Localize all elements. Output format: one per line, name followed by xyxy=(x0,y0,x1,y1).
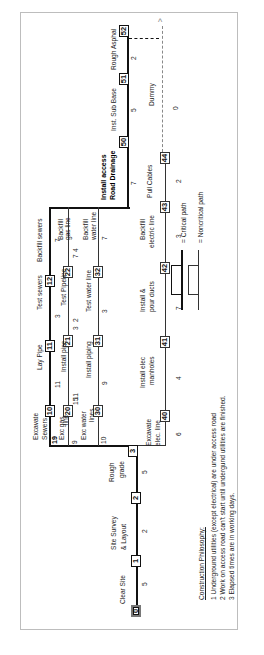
node-52: 52 xyxy=(119,25,129,37)
label-exc-water-1: Exc water xyxy=(80,411,88,440)
label-backfill-sewers: Backfill sewers xyxy=(36,218,44,262)
label-backfill-water-2: water line xyxy=(90,212,98,240)
dashed-link-to-dummy xyxy=(129,38,159,39)
node-51: 51 xyxy=(119,73,129,85)
label-excavate-elec-2: elec. line xyxy=(154,420,162,446)
label-exc-water-2: lines xyxy=(88,408,96,422)
label-site-survey-1: Site Survey xyxy=(110,516,118,550)
dummy-arrow-icon: ^ xyxy=(158,18,162,27)
dur-32-end: 4 xyxy=(72,248,80,252)
node-11: 11 xyxy=(45,340,55,352)
dur-gas-water: 9 xyxy=(71,440,79,444)
node-50: 50 xyxy=(119,136,129,148)
label-rough-grade-1: Rough xyxy=(108,463,116,482)
label-pull-cables: Pull Cables xyxy=(146,165,154,198)
node-42: 42 xyxy=(160,262,170,274)
label-rough-asphalt: Rough Asphal xyxy=(110,29,118,70)
label-test-sewers: Test sewers xyxy=(36,275,44,310)
dur-2-3: 5 xyxy=(141,470,149,474)
label-install-manholes-2: manholes xyxy=(148,356,156,385)
dur-dummy: 0 xyxy=(172,106,180,110)
label-backfill-gas-2: gas line xyxy=(64,217,72,240)
label-test-water: Test water line xyxy=(85,270,93,312)
notes-title: Construction Philosophy: xyxy=(198,527,206,600)
dur-water-row: 10 xyxy=(100,437,108,444)
dur-1-2: 2 xyxy=(141,529,149,533)
node-0: 0 xyxy=(131,605,141,617)
label-exc-gas-2: line xyxy=(62,415,70,425)
label-install-pipe: Install pipe xyxy=(60,340,68,372)
node-3: 3 xyxy=(128,445,138,457)
critical-line-start xyxy=(136,457,138,607)
label-rough-grade-2: grade xyxy=(118,461,126,478)
label-dummy: Dummy xyxy=(148,83,156,106)
label-install-ducts-2: pour ducts xyxy=(148,281,156,312)
dummy-dotted-line xyxy=(162,26,163,152)
dur-31-32: 2 xyxy=(72,318,80,322)
legend-noncritical-label: = Noncritical path xyxy=(197,192,205,243)
note-3: 3 Elapsed times are in working days. xyxy=(228,493,236,600)
dur-30-31: 15 xyxy=(72,398,80,405)
dur-50-51: 5 xyxy=(130,108,138,112)
dur-w-3: 3 xyxy=(101,309,109,313)
label-install-piping: Install piping xyxy=(85,341,93,378)
node-31: 31 xyxy=(93,335,103,347)
dur-43-44: 2 xyxy=(175,179,183,183)
node-32: 32 xyxy=(93,266,103,278)
dur-w-9: 9 xyxy=(101,381,109,385)
node-40: 40 xyxy=(160,410,170,422)
label-lay-pipe: Lay Pipe xyxy=(36,344,44,370)
dur-0-1: 5 xyxy=(141,582,149,586)
label-install-access-2: Road Drainage xyxy=(109,151,117,200)
label-excavate-sewers-2: Sewers xyxy=(41,418,49,440)
node-1: 1 xyxy=(131,555,141,567)
note-1: 1 Underground utilities (except electric… xyxy=(210,413,218,600)
legend-critical-line xyxy=(181,250,183,310)
dur-w-7: 7 xyxy=(101,236,109,240)
dur-11-12: 3 xyxy=(54,314,62,318)
dur-40-41: 4 xyxy=(175,376,183,380)
dur-to-50: 7 xyxy=(130,181,138,185)
node-2: 2 xyxy=(131,492,141,504)
note-2: 2 Work on access road can't start until … xyxy=(219,395,227,600)
bracket-top-edge xyxy=(50,207,130,209)
critical-line-road xyxy=(127,35,129,209)
legend-noncritical-line xyxy=(198,250,199,310)
dur-22-end: 7 xyxy=(72,254,80,258)
legend-critical-box xyxy=(171,265,181,295)
node-12: 12 xyxy=(45,275,55,287)
legend-noncritical-box xyxy=(188,265,198,295)
dur-51-52: 2 xyxy=(130,56,138,60)
label-install-access-1: Install access xyxy=(100,154,108,200)
label-inst-sub-base: Inst. Sub Base xyxy=(110,88,118,131)
dur-21-22: 3 xyxy=(72,326,80,330)
dur-10-11: 11 xyxy=(54,381,62,388)
label-excavate-sewers-1: Excavate xyxy=(32,413,40,440)
node-10: 10 xyxy=(45,405,55,417)
node-41: 41 xyxy=(160,336,170,348)
label-backfill-elec-1: Backfill xyxy=(139,219,147,240)
node-43: 43 xyxy=(160,201,170,213)
label-clear-site: Clear Site xyxy=(119,575,127,604)
label-install-manholes-1: Install elec xyxy=(139,357,147,388)
label-test-pipeline: Test Pipeline xyxy=(60,269,68,306)
dur-3-40: 6 xyxy=(175,432,183,436)
label-site-survey-2: & Layout xyxy=(120,524,128,550)
label-install-ducts-1: Install & xyxy=(139,289,147,312)
label-backfill-elec-2: electric line xyxy=(148,215,156,248)
label-backfill-water-1: Backfill xyxy=(82,219,90,240)
label-excavate-elec-1: Excavate xyxy=(145,419,153,446)
legend-critical-label: = Critical path xyxy=(180,203,188,244)
node-44: 44 xyxy=(160,152,170,164)
bracket-bottom-edge xyxy=(50,445,130,447)
